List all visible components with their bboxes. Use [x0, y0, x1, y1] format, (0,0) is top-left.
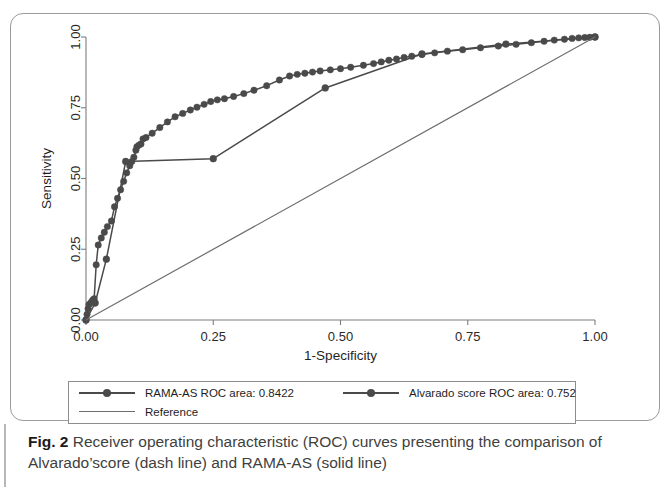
series-marker-0 — [302, 70, 308, 76]
legend-line-marker-icon — [79, 386, 135, 400]
legend-label-reference: Reference — [145, 406, 198, 418]
series-marker-0 — [347, 64, 353, 70]
series-marker-0 — [309, 69, 315, 75]
y-tick-label: 0.50 — [68, 166, 83, 191]
roc-chart: 0.000.250.500.751.000.000.250.500.751.00… — [0, 0, 628, 380]
series-marker-0 — [241, 90, 247, 96]
series-marker-0 — [180, 110, 186, 116]
series-marker-0 — [201, 101, 207, 107]
series-marker-0 — [495, 43, 501, 49]
series-marker-1 — [322, 85, 329, 92]
series-marker-1 — [503, 41, 510, 48]
page-margin-rule — [4, 424, 6, 487]
series-marker-0 — [95, 242, 101, 248]
series-marker-0 — [360, 62, 366, 68]
series-marker-0 — [286, 73, 292, 79]
roc-plot-svg: 0.000.250.500.751.000.000.250.500.751.00… — [0, 0, 628, 380]
series-marker-0 — [251, 87, 257, 93]
legend-line-icon — [79, 405, 135, 419]
series-marker-0 — [164, 119, 170, 125]
x-tick-label: 0.50 — [328, 329, 353, 344]
series-marker-0 — [337, 66, 343, 72]
series-marker-0 — [276, 77, 282, 83]
series-marker-0 — [386, 57, 392, 63]
chart-legend: RAMA-AS ROC area: 0.8422 Alvarado score … — [68, 381, 576, 424]
series-marker-1 — [210, 155, 217, 162]
x-tick-label: 0.75 — [455, 329, 480, 344]
series-marker-0 — [98, 235, 104, 241]
figure-caption-text: Receiver operating characteristic (ROC) … — [28, 433, 602, 471]
series-marker-0 — [172, 114, 178, 120]
y-tick-label: 0.25 — [68, 237, 83, 262]
series-marker-0 — [157, 124, 163, 130]
series-marker-0 — [230, 93, 236, 99]
legend-item-reference: Reference — [79, 403, 198, 421]
series-marker-0 — [221, 95, 227, 101]
y-tick-label: 0.75 — [68, 95, 83, 120]
series-marker-0 — [149, 130, 155, 136]
series-marker-1 — [92, 300, 99, 307]
series-marker-0 — [263, 82, 269, 88]
series-marker-0 — [143, 134, 149, 140]
legend-label-alvarado: Alvarado score ROC area: 0.752 — [409, 387, 576, 399]
series-marker-0 — [187, 107, 193, 113]
figure-caption: Fig. 2 Receiver operating characteristic… — [28, 432, 608, 473]
series-marker-0 — [378, 59, 384, 65]
x-tick-label: 1.00 — [582, 329, 607, 344]
legend-label-rama-as: RAMA-AS ROC area: 0.8422 — [145, 387, 294, 399]
series-marker-0 — [317, 68, 323, 74]
series-marker-1 — [122, 158, 129, 165]
legend-item-alvarado: Alvarado score ROC area: 0.752 — [343, 384, 576, 402]
y-tick-label: 1.00 — [68, 24, 83, 49]
series-marker-0 — [194, 104, 200, 110]
x-tick-label: 0.25 — [201, 329, 226, 344]
x-axis-title: 1-Specificity — [304, 348, 377, 363]
legend-line-marker-icon — [343, 386, 399, 400]
series-marker-0 — [513, 41, 519, 47]
series-marker-0 — [208, 98, 214, 104]
figure-number: Fig. 2 — [28, 433, 68, 450]
series-marker-0 — [214, 97, 220, 103]
y-axis-title: Sensitivity — [39, 148, 54, 209]
series-marker-0 — [101, 229, 107, 235]
series-marker-0 — [327, 67, 333, 73]
series-marker-0 — [93, 262, 99, 268]
series-marker-0 — [393, 56, 399, 62]
series-marker-1 — [103, 256, 110, 263]
series-marker-0 — [131, 154, 137, 160]
y-tick-label: 0.00 — [68, 307, 83, 332]
series-marker-0 — [294, 71, 300, 77]
series-marker-0 — [104, 223, 110, 229]
legend-item-rama-as: RAMA-AS ROC area: 0.8422 — [79, 384, 294, 402]
series-marker-1 — [419, 51, 426, 58]
series-marker-0 — [370, 60, 376, 66]
series-line-2 — [86, 37, 595, 320]
